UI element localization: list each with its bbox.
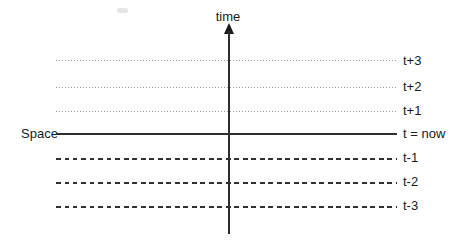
time-slice-label-t-plus-3: t+3 [403,54,458,68]
time-slice-label-t-minus-2: t-2 [403,175,458,189]
time-slice-line-t-minus-3 [56,206,397,208]
space-axis-label: Space [21,127,58,141]
time-axis-label: time [206,10,250,24]
time-slice-label-t-minus-1: t-1 [403,151,458,165]
time-slice-label-t-minus-3: t-3 [403,199,458,213]
time-slice-label-now: t = now [403,127,458,141]
scan-artifact [117,8,128,13]
time-slice-line-t-plus-3 [56,60,397,61]
time-slice-label-t-plus-1: t+1 [403,104,458,118]
time-slice-line-t-plus-2 [56,87,397,88]
time-slice-line-now [56,133,397,135]
spacetime-diagram: time Space t+3 t+2 t+1 t = now t-1 t-2 t… [0,0,463,252]
time-slice-line-t-minus-1 [56,158,397,160]
time-slice-label-t-plus-2: t+2 [403,80,458,94]
time-slice-line-t-plus-1 [56,111,397,112]
time-slice-line-t-minus-2 [56,182,397,184]
